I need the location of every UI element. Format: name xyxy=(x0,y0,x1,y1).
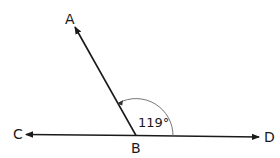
diagram-svg xyxy=(0,0,280,158)
point-label-c: C xyxy=(13,127,23,141)
ray-bc xyxy=(26,135,136,136)
point-label-a: A xyxy=(65,12,75,26)
ray-ba xyxy=(75,27,136,136)
angle-measure-label: 119° xyxy=(138,116,169,129)
point-label-d: D xyxy=(264,130,275,144)
ray-bd xyxy=(136,136,259,138)
angle-diagram: A B C D 119° xyxy=(0,0,280,158)
point-label-b: B xyxy=(131,141,141,155)
